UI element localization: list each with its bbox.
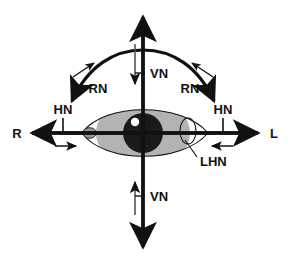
- corneal-highlight: [131, 118, 139, 126]
- axis-label-left: L: [270, 126, 278, 141]
- label-vn-lower: VN: [150, 189, 168, 204]
- label-lhn: LHN: [200, 154, 227, 169]
- label-hn-right: HN: [214, 102, 233, 117]
- eye-nystagmus-diagram: R L HN HN VN VN RN RN LHN: [0, 0, 290, 265]
- label-rn-right: RN: [181, 81, 200, 96]
- label-rn-left: RN: [89, 81, 108, 96]
- rn-direction-arrow-right: [192, 63, 213, 77]
- axis-label-right: R: [12, 126, 22, 141]
- label-hn-left: HN: [54, 102, 73, 117]
- label-vn-upper: VN: [150, 66, 168, 81]
- rn-arc-left: [72, 50, 143, 101]
- diagram-canvas: R L HN HN VN VN RN RN LHN: [0, 0, 290, 265]
- rn-direction-arrow-left: [73, 63, 94, 77]
